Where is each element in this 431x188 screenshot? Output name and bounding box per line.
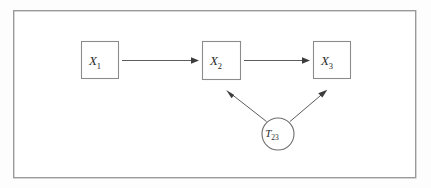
causal-diagram: X1 X2 X3 T23 [0,0,431,188]
outer-frame [14,11,416,178]
node-x3[interactable]: X3 [314,42,351,79]
node-x2[interactable]: X2 [203,42,241,80]
diagram-canvas: X1 X2 X3 T23 [0,0,431,188]
node-t23[interactable]: T23 [262,118,294,150]
node-x1[interactable]: X1 [82,42,119,79]
